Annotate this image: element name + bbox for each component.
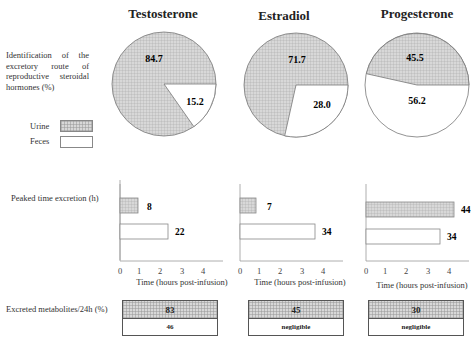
svg-text:2: 2 [158, 266, 162, 276]
pie-estradiol: 71.7 28.0 [232, 28, 352, 143]
bar-progesterone-urine [366, 202, 454, 217]
pie-estradiol-urine-value: 71.7 [288, 54, 306, 65]
bar-progesterone-feces-label: 34 [447, 232, 457, 242]
axis-title-estradiol: Time (hours post-infusion) [240, 277, 360, 287]
bar-testosterone-urine-label: 8 [147, 202, 152, 212]
svg-text:2: 2 [278, 266, 282, 276]
pie-progesterone-urine-value: 45.5 [406, 52, 424, 63]
bar-testosterone-feces [120, 224, 168, 239]
legend-feces-label: Feces [30, 136, 49, 146]
metabolites-row-label: Excreted metabolites/24h (%) [6, 304, 116, 315]
bar-testosterone-feces-label: 22 [175, 227, 185, 237]
legend-urine-swatch [60, 120, 93, 132]
metabolites-progesterone-feces: negligible [369, 319, 463, 335]
svg-text:4: 4 [201, 266, 206, 276]
bar-estradiol-urine [240, 198, 256, 213]
svg-text:4: 4 [447, 266, 452, 276]
bar-chart-testosterone: 8 22 0 1 2 3 4 [110, 180, 235, 280]
pie-testosterone-feces-value: 15.2 [186, 96, 204, 107]
bar-estradiol-urine-label: 7 [267, 202, 272, 212]
axis-title-progesterone: Time (hours post-infusion) [362, 280, 475, 290]
metabolites-estradiol-feces: negligible [249, 319, 343, 335]
title-testosterone: Testosterone [108, 6, 218, 22]
metabolites-box-testosterone: 83 46 [122, 300, 218, 336]
bar-chart-progesterone: 44 34 0 1 2 3 4 [356, 180, 475, 280]
svg-text:1: 1 [383, 266, 387, 276]
pie-progesterone-feces-value: 56.2 [408, 95, 426, 106]
svg-text:3: 3 [300, 266, 304, 276]
pie-testosterone: 84.7 15.2 [110, 28, 220, 138]
svg-text:2: 2 [404, 266, 408, 276]
svg-text:1: 1 [257, 266, 261, 276]
pie-progesterone: 45.5 56.2 [360, 28, 475, 143]
legend-feces-swatch [60, 136, 93, 148]
metabolites-testosterone-urine: 83 [123, 301, 217, 319]
metabolites-testosterone-feces: 46 [123, 319, 217, 335]
bar-estradiol-feces-label: 34 [322, 227, 332, 237]
bar-estradiol-feces [240, 224, 315, 239]
pie-estradiol-feces-value: 28.0 [313, 99, 331, 110]
svg-text:0: 0 [364, 266, 368, 276]
metabolites-box-progesterone: 30 negligible [368, 300, 464, 336]
svg-text:3: 3 [180, 266, 184, 276]
peak-row-label: Peaked time excretion (h) [11, 193, 121, 204]
svg-text:0: 0 [238, 266, 242, 276]
svg-text:1: 1 [137, 266, 141, 276]
legend-urine-label: Urine [30, 121, 49, 131]
title-estradiol: Estradiol [229, 8, 339, 24]
route-row-label: Identification of the excretory route of… [6, 50, 89, 92]
svg-text:4: 4 [321, 266, 326, 276]
pie-testosterone-urine-value: 84.7 [145, 53, 163, 64]
bar-chart-estradiol: 7 34 0 1 2 3 4 [230, 180, 355, 280]
metabolites-box-estradiol: 45 negligible [248, 300, 344, 336]
title-progesterone: Progesterone [362, 6, 472, 22]
axis-title-testosterone: Time (hours post-infusion) [122, 277, 242, 287]
bar-progesterone-feces [366, 229, 440, 244]
metabolites-progesterone-urine: 30 [369, 301, 463, 319]
svg-text:3: 3 [426, 266, 430, 276]
bar-progesterone-urine-label: 44 [461, 205, 471, 215]
svg-text:0: 0 [118, 266, 122, 276]
bar-testosterone-urine [120, 198, 138, 213]
metabolites-estradiol-urine: 45 [249, 301, 343, 319]
